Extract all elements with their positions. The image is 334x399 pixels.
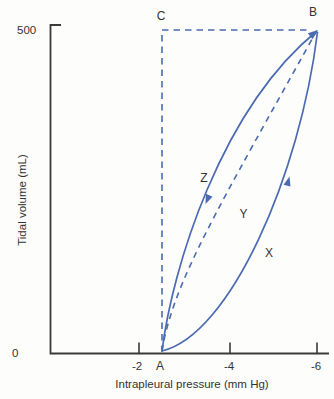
curve-Z-path (162, 31, 317, 351)
axes (51, 25, 330, 354)
point-label-A: A (156, 359, 164, 373)
figure-canvas: 500 0 -2 -4 -6 A B C Z Y X Intrapleural … (0, 0, 334, 399)
curve-label-X: X (265, 246, 273, 260)
point-label-B: B (309, 5, 317, 19)
x-tick-label-neg4: -4 (224, 360, 235, 372)
curve-Y-dashed-path (162, 32, 316, 351)
y-tick-label-500: 500 (17, 24, 36, 36)
curve-X-path (162, 32, 318, 351)
dashed-guide-rectangle (162, 30, 310, 352)
x-tick-label-neg2: -2 (132, 360, 142, 372)
point-label-C: C (157, 9, 166, 23)
curve-label-Y: Y (239, 207, 247, 221)
arrowhead-curve-X (284, 176, 293, 187)
x-tick-label-neg6: -6 (311, 360, 321, 372)
curve-label-Z: Z (200, 171, 207, 185)
pv-loop-chart: 500 0 -2 -4 -6 A B C Z Y X Intrapleural … (0, 0, 334, 399)
x-axis-title: Intrapleural pressure (mm Hg) (115, 378, 269, 390)
y-axis-title: Tidal volume (mL) (16, 154, 28, 246)
y-tick-label-0: 0 (12, 347, 18, 359)
x-axis-ticks (139, 343, 317, 354)
